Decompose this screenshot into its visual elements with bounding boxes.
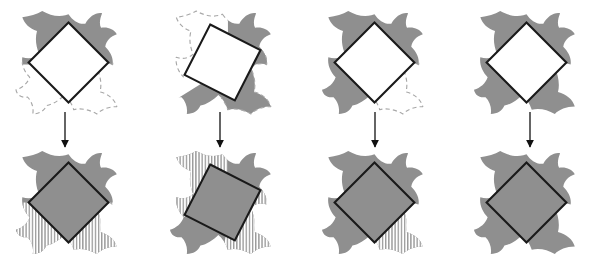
panel-2-bottom-shape [170,151,273,254]
panel-1 [16,11,117,254]
panel-1-top-shape [16,11,117,114]
panel-3 [322,11,423,254]
panel-4-top-shape [474,11,575,114]
panel-2-top-shape [170,11,273,114]
panel-2 [170,11,273,254]
sequence-figure: .blob-fill { fill:#8f8f8f; stroke:none; … [0,0,594,262]
panel-1-bottom-shape [16,151,117,254]
panel-3-bottom-shape [322,151,423,254]
panel-4-bottom-shape [474,151,575,254]
panel-4 [474,11,575,254]
panel-3-top-shape [322,11,423,114]
